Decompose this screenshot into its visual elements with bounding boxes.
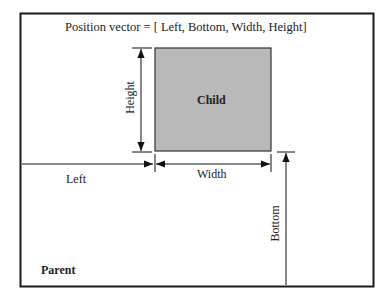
bottom-label: Bottom bbox=[268, 194, 283, 254]
width-label: Width bbox=[197, 167, 227, 182]
diagram-canvas bbox=[0, 0, 386, 296]
child-label: Child bbox=[197, 93, 226, 108]
height-label: Height bbox=[123, 68, 138, 128]
left-label: Left bbox=[66, 172, 86, 187]
parent-label: Parent bbox=[41, 263, 75, 278]
diagram-title: Position vector = [ Left, Bottom, Width,… bbox=[65, 20, 307, 35]
